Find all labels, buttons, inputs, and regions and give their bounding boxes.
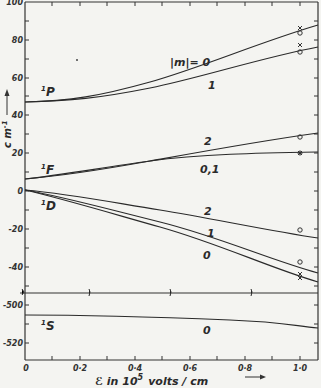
x-label-10: 1·0 — [293, 364, 308, 373]
markers — [298, 26, 302, 280]
circle-marker — [298, 228, 302, 232]
y-axis-unit: c m-1 — [1, 120, 13, 148]
series-1S — [25, 315, 318, 328]
x-label-02: 0·2 — [73, 364, 88, 373]
label-F-m2: 2 — [204, 135, 212, 148]
label-1P: 1P — [41, 85, 55, 99]
right-arrow-icon — [260, 375, 266, 380]
label-P-m1: 1 — [208, 79, 216, 92]
up-arrow-icon — [5, 89, 10, 96]
x-tick-labels: 0 0·2 0·4 0·6 0·8 1·0 — [23, 364, 307, 373]
axis-break — [20, 289, 318, 296]
label-D-m2: 2 — [204, 205, 212, 218]
y-label-20: 20 — [12, 149, 24, 158]
x-label-06: 0·6 — [183, 364, 198, 373]
x-label-0: 0 — [23, 364, 29, 373]
cross-marker — [298, 151, 302, 155]
y-label-0: 0 — [17, 187, 23, 196]
y-tick-labels: 100 80 60 40 20 0 -20 -40 -500 -520 — [3, 0, 23, 348]
label-D-m0: 0 — [203, 249, 211, 262]
label-P-m0: |m|= 0 — [170, 56, 211, 69]
y-label-40: 40 — [11, 111, 24, 120]
svg-text:ℰ in 105volts / cm: ℰ in 105volts / cm — [95, 373, 208, 388]
x-axis-title: ℰ in 105volts / cm — [95, 373, 266, 388]
label-1F: 1F — [41, 163, 55, 177]
label-1S: 1S — [41, 319, 55, 333]
y-label-80: 80 — [12, 36, 24, 45]
curve-1F-m01 — [25, 152, 318, 179]
y-label-m40: -40 — [9, 263, 24, 272]
circle-marker — [298, 260, 302, 264]
series-1D — [25, 190, 318, 282]
curve-1F-m2 — [25, 133, 318, 179]
y-label-m500: -500 — [3, 301, 23, 310]
x-label-08: 0·8 — [238, 364, 253, 373]
curve-1D-m0 — [25, 190, 318, 282]
y-label-m20: -20 — [9, 225, 24, 234]
label-S-m0: 0 — [203, 324, 211, 337]
cross-marker — [298, 43, 302, 47]
y-label-100: 100 — [6, 0, 23, 7]
curve-1S-m0 — [25, 315, 318, 328]
cross-marker — [298, 26, 302, 30]
cross-marker — [298, 272, 302, 276]
state-labels: 1P 1F 1D 1S — [41, 85, 56, 333]
curve-1D-m1 — [25, 190, 318, 273]
label-D-m1: 1 — [207, 227, 215, 240]
label-1D: 1D — [41, 199, 56, 213]
y-label-m520: -520 — [3, 339, 23, 348]
stark-effect-chart: 100 80 60 40 20 0 -20 -40 -500 -520 0 0·… — [0, 0, 321, 388]
x-label-04: 0·4 — [128, 364, 143, 373]
stray-dot — [76, 59, 78, 61]
circle-marker — [298, 31, 302, 35]
y-label-60: 60 — [12, 74, 24, 83]
m-labels: |m|= 0 1 2 0,1 2 1 0 0 — [170, 56, 220, 337]
label-F-m01: 0,1 — [200, 163, 220, 176]
series-1F — [25, 133, 318, 179]
